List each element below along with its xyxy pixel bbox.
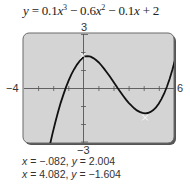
readout-min: x = 4.082, y = −1.604 — [22, 168, 121, 180]
readout-max: x = −.082, y = 2.004 — [22, 155, 115, 167]
